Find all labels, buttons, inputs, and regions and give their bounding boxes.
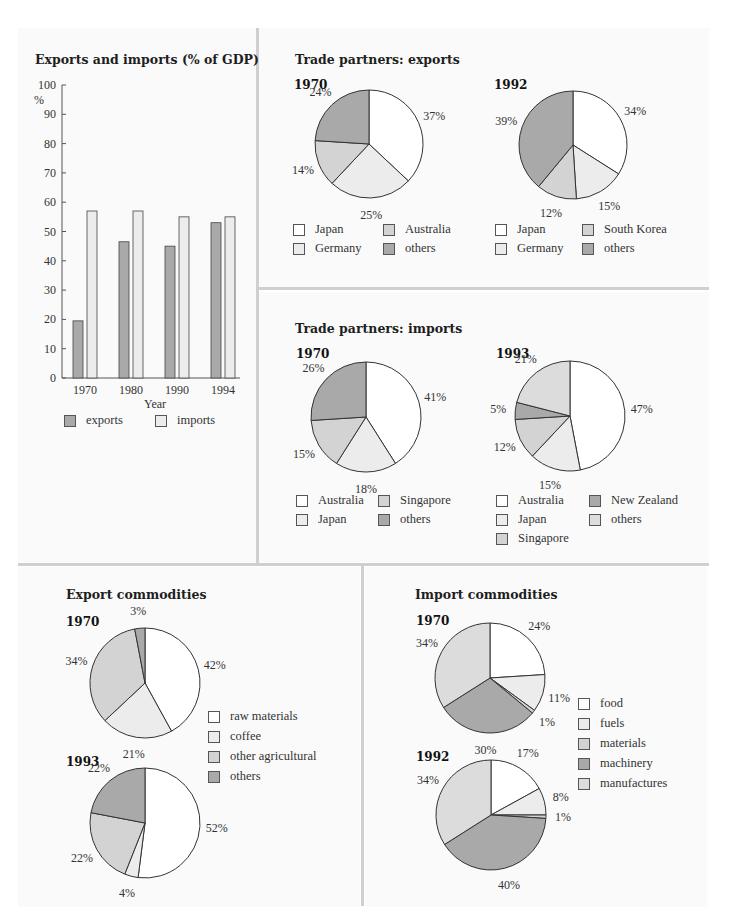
- australia-swatch-icon: [383, 224, 395, 236]
- gdp-bar-chart: 0102030405060708090100%1970198019901994Y…: [0, 0, 256, 440]
- legend-item-machinery: machinery: [578, 756, 653, 771]
- svg-text:60: 60: [44, 195, 56, 209]
- new-zealand-swatch-icon: [589, 495, 601, 507]
- svg-text:1994: 1994: [211, 383, 235, 397]
- import-partners-title: Trade partners: imports: [295, 321, 462, 336]
- svg-text:0: 0: [50, 371, 56, 385]
- divider-vertical-bottom: [361, 566, 364, 906]
- machinery-swatch-icon: [578, 758, 590, 770]
- legend-item-others: others: [582, 241, 635, 256]
- japan-swatch-icon: [296, 514, 308, 526]
- others-swatch-icon: [378, 514, 390, 526]
- legend-item-others: others: [383, 241, 436, 256]
- export-partners-year-1970: 1970: [294, 78, 327, 92]
- legend-item-materials: materials: [578, 736, 646, 751]
- svg-text:1980: 1980: [119, 383, 143, 397]
- export-commodities-year-1993: 1993: [66, 755, 99, 769]
- australia-swatch-icon: [496, 495, 508, 507]
- divider-horizontal-mid: [259, 287, 709, 290]
- legend-item-germany: Germany: [495, 241, 564, 256]
- legend-item-new-zealand: New Zealand: [589, 493, 678, 508]
- japan-swatch-icon: [495, 224, 507, 236]
- materials-swatch-icon: [578, 738, 590, 750]
- legend-item-australia: Australia: [496, 493, 564, 508]
- legend-item-south-korea: South Korea: [582, 222, 667, 237]
- export-commodities-year-1970: 1970: [66, 615, 99, 629]
- import-commodities-year-1992: 1992: [416, 750, 449, 764]
- svg-text:50: 50: [44, 225, 56, 239]
- svg-text:1990: 1990: [165, 383, 189, 397]
- import-commodities-title: Import commodities: [415, 587, 558, 602]
- import-partners-year-1970: 1970: [296, 347, 329, 361]
- svg-text:80: 80: [44, 137, 56, 151]
- legend-item-manufactures: manufactures: [578, 776, 667, 791]
- germany-swatch-icon: [293, 243, 305, 255]
- raw-materials-swatch-icon: [208, 711, 220, 723]
- legend-item-japan: Japan: [495, 222, 545, 237]
- australia-swatch-icon: [296, 495, 308, 507]
- svg-text:20: 20: [44, 312, 56, 326]
- export-commodities-title: Export commodities: [66, 587, 207, 602]
- legend-item-fuels: fuels: [578, 716, 624, 731]
- germany-swatch-icon: [495, 243, 507, 255]
- others-swatch-icon: [208, 771, 220, 783]
- svg-text:30: 30: [44, 283, 56, 297]
- singapore-swatch-icon: [496, 533, 508, 545]
- legend-item-japan: Japan: [293, 222, 343, 237]
- legend-item-others: others: [589, 512, 642, 527]
- legend-item-singapore: Singapore: [496, 531, 569, 546]
- legend-item-australia: Australia: [296, 493, 364, 508]
- svg-text:40: 40: [44, 254, 56, 268]
- svg-text:1970: 1970: [73, 383, 97, 397]
- svg-text:90: 90: [44, 107, 56, 121]
- legend-item-singapore: Singapore: [378, 493, 451, 508]
- legend-item-others: others: [378, 512, 431, 527]
- japan-swatch-icon: [293, 224, 305, 236]
- export-partners-title: Trade partners: exports: [295, 52, 460, 67]
- singapore-swatch-icon: [378, 495, 390, 507]
- legend-item-coffee: coffee: [208, 729, 261, 744]
- legend-item-japan: Japan: [296, 512, 346, 527]
- south-korea-swatch-icon: [582, 224, 594, 236]
- others-swatch-icon: [589, 514, 601, 526]
- legend-item-japan: Japan: [496, 512, 546, 527]
- legend-item-australia: Australia: [383, 222, 451, 237]
- others-swatch-icon: [582, 243, 594, 255]
- svg-text:70: 70: [44, 166, 56, 180]
- manufactures-swatch-icon: [578, 778, 590, 790]
- svg-text:Year: Year: [144, 397, 166, 411]
- imports-swatch-icon: [155, 415, 167, 427]
- legend-item-germany: Germany: [293, 241, 362, 256]
- fuels-swatch-icon: [578, 718, 590, 730]
- import-partners-year-1993: 1993: [496, 347, 529, 361]
- legend-item-exports: exports: [64, 413, 123, 428]
- legend-item-food: food: [578, 696, 623, 711]
- others-swatch-icon: [383, 243, 395, 255]
- legend-item-other-agricultural: other agricultural: [208, 749, 316, 764]
- svg-text:%: %: [34, 93, 44, 107]
- import-commodities-year-1970: 1970: [416, 614, 449, 628]
- legend-item-imports: imports: [155, 413, 215, 428]
- food-swatch-icon: [578, 698, 590, 710]
- coffee-swatch-icon: [208, 731, 220, 743]
- legend-item-raw-materials: raw materials: [208, 709, 298, 724]
- japan-swatch-icon: [496, 514, 508, 526]
- svg-text:10: 10: [44, 342, 56, 356]
- exports-swatch-icon: [64, 415, 76, 427]
- other-agricultural-swatch-icon: [208, 751, 220, 763]
- legend-item-others: others: [208, 769, 261, 784]
- export-partners-year-1992: 1992: [494, 78, 527, 92]
- svg-text:100: 100: [38, 78, 56, 92]
- divider-vertical-top: [256, 28, 259, 564]
